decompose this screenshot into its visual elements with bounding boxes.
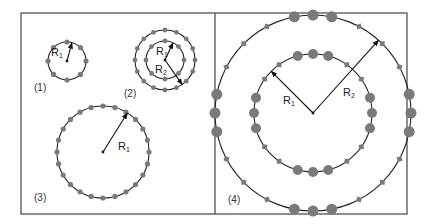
ring-dot: [88, 105, 93, 110]
radius-label: R1: [118, 140, 130, 153]
large-dot: [404, 89, 415, 100]
large-dot: [323, 165, 333, 175]
ring-dot: [100, 103, 105, 108]
large-dot: [367, 108, 377, 118]
panel-label: (4): [228, 194, 240, 205]
panel-1: R1(1): [34, 39, 89, 93]
ring-dot: [45, 58, 50, 63]
ring-dot: [190, 46, 195, 51]
panel-2: R1R2(2): [124, 28, 197, 99]
small-square-marker: [380, 41, 385, 46]
panel-3: R1(3): [34, 103, 152, 203]
ring-dot: [174, 30, 179, 35]
ring-dot: [146, 149, 151, 154]
ring-dot: [145, 137, 150, 142]
small-square-marker: [264, 197, 270, 203]
small-square-marker: [356, 23, 362, 29]
ring-dot: [140, 126, 145, 131]
ring-dot: [182, 58, 187, 63]
ring-dot: [141, 36, 146, 41]
ring-dot: [163, 39, 168, 44]
ring-dot: [78, 45, 83, 50]
panels-group: R1(1)R1R2(2)R1(3)R1R2(4): [34, 10, 417, 217]
ring-dot: [151, 30, 156, 35]
ring-dot: [184, 79, 189, 84]
panel-label: (2): [124, 88, 136, 99]
small-square-marker: [380, 180, 385, 185]
ring-dot: [135, 69, 140, 74]
large-dot: [308, 49, 318, 59]
ring-dot: [145, 161, 150, 166]
large-dot: [365, 93, 375, 103]
ring-dot: [112, 105, 117, 110]
ring-dot: [112, 194, 117, 199]
large-dot: [323, 51, 333, 61]
ring-dot: [64, 39, 69, 44]
large-dot: [251, 93, 261, 103]
large-dot: [251, 123, 261, 133]
large-dot: [326, 204, 337, 215]
large-dot: [293, 51, 303, 61]
panel-label: (3): [34, 192, 46, 203]
ring-dot: [163, 77, 168, 82]
ring-dot: [133, 58, 138, 63]
small-square-marker: [344, 62, 350, 68]
small-square-marker: [241, 180, 246, 185]
ring-dot: [56, 137, 61, 142]
large-dot: [211, 126, 222, 137]
ring-dot: [56, 161, 61, 166]
radius-label: R2: [155, 63, 167, 76]
ring-dot: [61, 172, 66, 177]
ring-dot: [123, 189, 128, 194]
large-dot: [293, 165, 303, 175]
small-square-marker: [262, 76, 268, 82]
small-square-marker: [241, 41, 246, 46]
small-square-marker: [276, 159, 282, 165]
ring-dot: [54, 149, 59, 154]
large-dot: [211, 89, 222, 100]
ring-dot: [133, 182, 138, 187]
large-dot: [249, 108, 259, 118]
large-dot: [308, 206, 319, 217]
large-dot: [289, 204, 300, 215]
small-square-marker: [356, 197, 362, 203]
ring-dot: [140, 172, 145, 177]
ring-dot: [190, 69, 195, 74]
ring-dot: [83, 58, 88, 63]
small-square-marker: [262, 144, 268, 150]
ring-dot: [144, 58, 149, 63]
radius-label: R2: [343, 86, 355, 99]
radius-label: R1: [156, 45, 168, 58]
ring-dot: [163, 28, 168, 33]
small-square-marker: [397, 64, 403, 70]
ring-dot: [51, 72, 56, 77]
radius-label: R1: [51, 46, 63, 59]
ring-dot: [149, 44, 154, 49]
ring-dot: [88, 194, 93, 199]
diagram-figure: R1(1)R1R2(2)R1(3)R1R2(4): [0, 0, 425, 224]
small-square-marker: [264, 23, 270, 29]
ring-dot: [68, 182, 73, 187]
ring-dot: [135, 46, 140, 51]
large-dot: [406, 108, 417, 119]
radius-arrow: [67, 43, 72, 61]
ring-dot: [123, 110, 128, 115]
panel-4: R1R2(4): [210, 10, 417, 217]
ring-dot: [61, 126, 66, 131]
ring-dot: [78, 72, 83, 77]
ring-dot: [184, 36, 189, 41]
large-dot: [404, 126, 415, 137]
small-square-marker: [223, 64, 229, 70]
ring-dot: [176, 44, 181, 49]
large-dot: [210, 108, 221, 119]
large-dot: [326, 11, 337, 22]
small-square-marker: [397, 156, 403, 162]
small-square-marker: [359, 144, 365, 150]
panel-label: (1): [34, 82, 46, 93]
ring-dot: [68, 117, 73, 122]
small-square-marker: [359, 76, 365, 82]
ring-dot: [151, 85, 156, 90]
large-dot: [308, 10, 319, 21]
ring-dot: [163, 88, 168, 93]
small-square-marker: [276, 62, 282, 68]
